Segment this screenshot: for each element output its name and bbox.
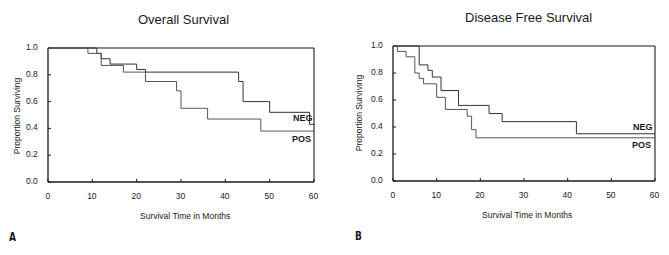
x-tick-label: 50 — [264, 191, 273, 201]
x-tick-label: 30 — [519, 190, 528, 200]
y-tick-label: 0.8 — [371, 67, 383, 77]
y-tick-label: 0.0 — [371, 175, 383, 185]
chart-panel-b: Disease Free Survival Proportion Survivi… — [335, 0, 669, 255]
x-axis-label: Survival Time in Months — [482, 210, 572, 220]
y-tick-label: 0.4 — [371, 121, 383, 131]
x-tick-label: 20 — [131, 191, 140, 201]
x-tick-label: 10 — [431, 190, 440, 200]
series-label-pos: POS — [632, 140, 651, 150]
panel-label: A — [9, 230, 16, 244]
x-tick-label: 40 — [220, 191, 229, 201]
series-label-pos: POS — [292, 134, 311, 144]
y-axis-label: Proportion Surviving — [12, 71, 22, 161]
y-tick-label: 0.4 — [26, 122, 38, 132]
x-tick-label: 40 — [562, 190, 571, 200]
y-tick-label: 0.6 — [371, 94, 383, 104]
survival-curve-pos — [393, 46, 655, 138]
y-axis-label: Proportion Surviving — [354, 68, 364, 158]
survival-curve-pos — [48, 48, 314, 131]
x-tick-label: 0 — [45, 191, 50, 201]
x-tick-label: 0 — [390, 190, 395, 200]
chart-panel-a: Overall Survival Proportion Surviving Su… — [0, 0, 334, 255]
x-tick-label: 60 — [309, 191, 318, 201]
x-tick-label: 20 — [475, 190, 484, 200]
y-tick-label: 0.2 — [26, 149, 38, 159]
series-label-neg: NEG — [633, 122, 653, 132]
survival-curve-neg — [393, 46, 655, 134]
y-tick-label: 0.2 — [371, 148, 383, 158]
x-tick-label: 50 — [606, 190, 615, 200]
x-axis-label: Survival Time in Months — [140, 211, 230, 221]
panel-label: B — [355, 229, 362, 243]
series-label-neg: NEG — [293, 113, 313, 123]
y-tick-label: 0.0 — [26, 176, 38, 186]
x-tick-label: 30 — [176, 191, 185, 201]
x-tick-label: 10 — [87, 191, 96, 201]
survival-curve-neg — [48, 48, 314, 124]
x-tick-label: 60 — [650, 190, 659, 200]
y-tick-label: 1.0 — [26, 42, 38, 52]
y-tick-label: 0.8 — [26, 69, 38, 79]
y-tick-label: 1.0 — [371, 40, 383, 50]
y-tick-label: 0.6 — [26, 96, 38, 106]
